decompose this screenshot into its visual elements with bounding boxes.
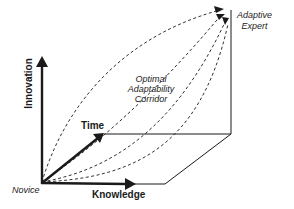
innovation-axis-label: Innovation <box>23 52 34 116</box>
time-axis-label: Time <box>81 120 104 131</box>
innovation-arrow-icon <box>36 56 48 67</box>
adaptive-expert-line1: Adaptive <box>237 10 272 21</box>
corridor-line1: Optimal <box>118 74 184 84</box>
corridor-line3: Corridor <box>118 94 184 104</box>
adaptive-expert-label: Adaptive Expert <box>237 10 272 32</box>
right-diagonal-line <box>165 134 231 184</box>
knowledge-axis-label: Knowledge <box>92 189 145 200</box>
corridor-line2: Adaptability <box>118 84 184 94</box>
trajectory-arrowheads <box>214 6 229 25</box>
time-axis <box>42 138 98 183</box>
arrowhead-icon <box>222 17 229 25</box>
adaptive-expert-line2: Expert <box>237 21 272 32</box>
corridor-label: Optimal Adaptability Corridor <box>118 74 184 104</box>
knowledge-axis <box>41 183 127 184</box>
novice-label: Novice <box>12 185 40 195</box>
arrowhead-icon <box>214 6 224 13</box>
